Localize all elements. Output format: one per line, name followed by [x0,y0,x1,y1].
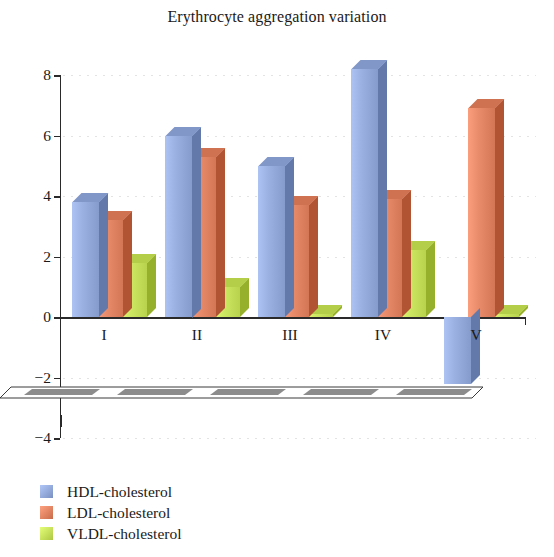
legend-item-label: HDL-cholesterol [67,483,172,501]
legend-color-swatch [40,506,53,519]
bar-side-face [99,193,108,317]
y-axis-tick [54,136,60,138]
bar-side-face [285,157,294,317]
chart-legend: HDL-cholesterolLDL-cholesterolVLDL-chole… [40,481,182,544]
bar-front-face [351,69,378,317]
bar-front-face [165,136,192,318]
floor-segment [117,389,193,395]
floor-segment [210,389,286,395]
y-axis-tick-label: 0 [43,308,51,326]
bar-side-face [402,190,411,317]
legend-item-label: LDL-cholesterol [67,504,170,522]
bar-hdl-cholesterol-iv [351,69,378,317]
bar-hdl-cholesterol-i [72,202,99,317]
floor-left-edge [60,415,62,427]
chart-container: Erythrocyte aggregation variation −4−202… [0,0,554,557]
x-axis-label-iii: III [282,326,298,344]
legend-item[interactable]: VLDL-cholesterol [40,523,182,544]
bar-hdl-cholesterol-v [444,317,471,384]
y-axis-tick-label: −4 [35,429,52,447]
gridline [60,75,536,76]
zero-axis-end-tick [525,317,527,325]
y-axis-tick-label: 6 [43,127,51,145]
y-axis-tick-label: 2 [43,248,51,266]
bar-side-face [471,308,480,384]
bar-front-face [258,166,285,317]
floor-segment [396,389,472,395]
floor-segment [24,389,100,395]
chart-floor-platform [0,366,484,408]
gridline [60,438,536,439]
x-axis-label-ii: II [192,326,202,344]
x-axis-label-v: V [470,326,481,344]
legend-item[interactable]: HDL-cholesterol [40,481,182,502]
y-axis-tick-label: 4 [43,187,51,205]
bar-side-face [123,211,132,317]
bar-front-face [444,317,471,384]
y-axis-tick [54,196,60,198]
floor-segment [303,389,379,395]
legend-item-label: VLDL-cholesterol [67,525,182,543]
bar-side-face [147,254,156,317]
x-axis-label-i: I [101,326,106,344]
bar-hdl-cholesterol-ii [165,136,192,318]
bar-ldl-cholesterol-v [468,108,495,317]
y-axis-tick [54,257,60,259]
legend-item[interactable]: LDL-cholesterol [40,502,182,523]
bar-side-face [426,241,435,317]
bar-side-face [216,148,225,317]
bar-front-face [468,108,495,317]
y-axis-tick-label: 8 [43,66,51,84]
bar-side-face [309,196,318,317]
y-axis-tick [54,75,60,77]
legend-color-swatch [40,485,53,498]
bar-hdl-cholesterol-iii [258,166,285,317]
bar-side-face [192,127,201,318]
y-axis-tick [54,438,60,440]
legend-color-swatch [40,527,53,540]
x-axis-label-iv: IV [375,326,391,344]
bar-side-face [495,99,504,317]
bar-side-face [378,60,387,317]
gridline [60,136,536,137]
chart-title: Erythrocyte aggregation variation [0,8,554,26]
bar-front-face [72,202,99,317]
